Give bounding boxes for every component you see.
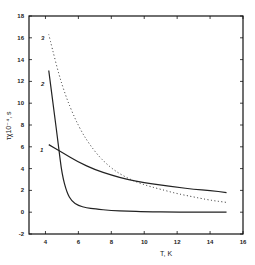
curve-label-3: 3 xyxy=(41,35,45,41)
x-tick-label: 12 xyxy=(174,239,181,245)
x-tick-label: 10 xyxy=(141,239,148,245)
x-tick-label: 16 xyxy=(240,239,247,245)
y-tick-label: 12 xyxy=(17,78,24,84)
curve-label-1: 1 xyxy=(40,147,44,153)
x-tick-label: 8 xyxy=(110,239,114,245)
y-tick-label: 18 xyxy=(17,13,24,19)
y-tick-label: 14 xyxy=(17,57,24,63)
curve-2 xyxy=(49,71,227,213)
y-tick-label: 0 xyxy=(21,209,25,215)
chart: 46810121416-2024681012141618 T, K τχ10⁻⁴… xyxy=(0,0,255,265)
curves xyxy=(49,35,227,213)
y-axis-label: τχ10⁻⁴, s xyxy=(5,111,13,140)
x-tick-label: 6 xyxy=(77,239,81,245)
y-tick-label: 16 xyxy=(17,35,24,41)
curve-1 xyxy=(49,145,227,193)
y-tick-label: 6 xyxy=(21,144,25,150)
curve-label-2: 2 xyxy=(40,81,45,87)
curve-3 xyxy=(49,35,227,203)
tick-labels: 46810121416-2024681012141618 xyxy=(17,13,247,245)
y-tick-label: 2 xyxy=(21,187,25,193)
x-axis-label: T, K xyxy=(160,250,172,257)
axis-ticks xyxy=(29,16,243,234)
x-tick-label: 14 xyxy=(207,239,214,245)
plot-frame xyxy=(29,16,243,234)
y-tick-label: 4 xyxy=(21,166,25,172)
y-tick-label: 8 xyxy=(21,122,25,128)
y-tick-label: 10 xyxy=(17,100,24,106)
y-tick-label: -2 xyxy=(19,231,25,237)
x-tick-label: 4 xyxy=(44,239,48,245)
